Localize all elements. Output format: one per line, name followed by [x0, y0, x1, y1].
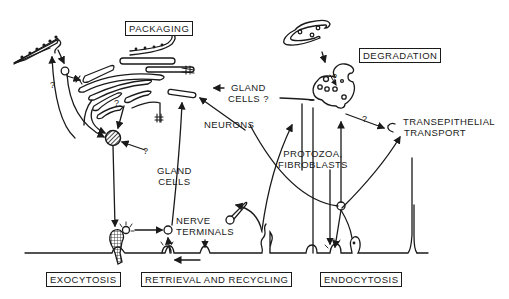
plasma-membrane	[25, 158, 428, 253]
lysosome	[313, 64, 354, 108]
endocytosis-box: ENDOCYTOSIS	[320, 272, 402, 287]
gland-cells-mid-line1: GLAND	[157, 165, 192, 176]
gland-cells-top-line1: GLAND	[228, 82, 269, 93]
packaging-box: PACKAGING	[125, 21, 193, 36]
protozoa-fibroblasts-label: PROTOZOA, FIBROBLASTS	[278, 148, 348, 170]
transepithelial-line: TRANSEPITHELIAL	[403, 116, 495, 127]
svg-text:?: ?	[114, 98, 119, 108]
transport-vesicle	[61, 67, 69, 75]
svg-text:?: ?	[332, 72, 337, 82]
secretory-granule	[106, 131, 121, 146]
phagosome	[284, 20, 330, 45]
gland-cells-mid-label: GLAND CELLS	[157, 165, 192, 187]
gland-cells-top-label: GLAND CELLS ?	[228, 82, 269, 104]
exocytosis-fusion	[110, 222, 134, 264]
degradation-box: DEGRADATION	[359, 48, 441, 63]
transport-line: TRANSPORT	[403, 127, 495, 138]
fibroblasts-line: FIBROBLASTS	[278, 159, 348, 170]
protozoa-line: PROTOZOA,	[278, 148, 348, 159]
nerve-terminals-label: NERVE TERMINALS	[176, 215, 234, 237]
transepithelial-vesicle	[388, 123, 395, 132]
svg-text:?: ?	[50, 80, 55, 90]
rough-er	[14, 35, 61, 64]
golgi-apparatus	[79, 35, 196, 125]
gland-cells-mid-line2: CELLS	[157, 176, 192, 187]
nerve-line: NERVE	[176, 215, 234, 226]
svg-text:?: ?	[143, 146, 148, 156]
membrane-trafficking-diagram: ? ? ? ? ?	[0, 0, 509, 299]
exocytosis-box: EXOCYTOSIS	[46, 272, 121, 287]
neurons-label: NEURONS	[204, 119, 254, 130]
terminals-line: TERMINALS	[176, 226, 234, 237]
gland-cells-top-line2: CELLS ?	[228, 93, 269, 104]
svg-text:?: ?	[362, 114, 367, 124]
retrieval-recycling-box: RETRIEVAL AND RECYCLING	[141, 272, 292, 287]
transepithelial-transport-label: TRANSEPITHELIAL TRANSPORT	[403, 116, 495, 138]
